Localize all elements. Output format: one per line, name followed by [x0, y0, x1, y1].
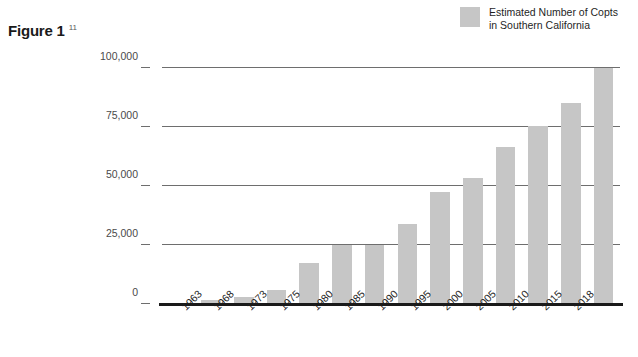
y-tick-label-75000: 75,000	[106, 109, 138, 121]
y-tick-mark-75000	[141, 126, 150, 127]
bar-2000	[430, 192, 450, 304]
figure-container: Figure 111 Estimated Number of Copts in …	[0, 0, 638, 357]
bar-2018	[561, 103, 581, 304]
y-tick-label-25000: 25,000	[106, 227, 138, 239]
y-tick-mark-100000	[141, 67, 150, 68]
y-tick-mark-0	[141, 303, 150, 304]
bar-2010	[496, 147, 516, 304]
y-tick-label-0: 0	[132, 286, 138, 298]
y-tick-mark-50000	[141, 185, 150, 186]
bar-2015	[528, 126, 548, 304]
y-axis-labels: 025,00050,00075,000100,000	[0, 68, 150, 304]
y-tick-label-50000: 50,000	[106, 168, 138, 180]
bar-2005	[463, 178, 483, 304]
y-tick-mark-25000	[141, 244, 150, 245]
plot-area	[162, 68, 620, 304]
figure-footnote-marker: 11	[69, 23, 77, 32]
bar-series	[162, 68, 620, 304]
bar-1990	[365, 245, 385, 304]
chart-legend: Estimated Number of Copts in Southern Ca…	[460, 6, 619, 32]
figure-title: Figure 111	[8, 22, 77, 39]
bar-final	[594, 68, 614, 304]
legend-swatch-icon	[460, 7, 480, 27]
y-tick-label-100000: 100,000	[100, 50, 138, 62]
bar-1995	[398, 224, 418, 304]
figure-title-text: Figure 1	[8, 22, 65, 39]
x-axis-labels: 1963196819731975198019851990199520002005…	[162, 304, 620, 357]
legend-label: Estimated Number of Copts in Southern Ca…	[489, 6, 619, 32]
